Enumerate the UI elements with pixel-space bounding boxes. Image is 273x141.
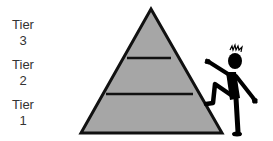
pyramid-diagram (0, 0, 273, 141)
pyramid (81, 9, 222, 133)
